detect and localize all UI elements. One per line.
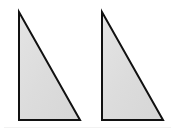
figure-svg [0, 0, 175, 133]
scan-artifact-line [4, 127, 171, 128]
figure-canvas [0, 0, 175, 133]
